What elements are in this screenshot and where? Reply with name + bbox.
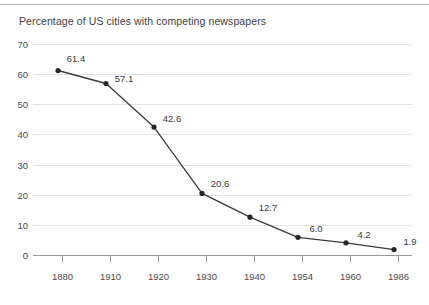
- data-point: [391, 247, 396, 252]
- y-gridlines: [33, 45, 412, 226]
- chart-page: Percentage of US cities with competing n…: [0, 0, 429, 305]
- x-tick-label: 1940: [244, 271, 265, 282]
- data-point-label: 20.6: [211, 178, 230, 189]
- data-point: [151, 125, 156, 130]
- y-tick-label: 30: [17, 160, 28, 171]
- x-tick-label: 1920: [148, 271, 169, 282]
- series-line: [58, 71, 394, 250]
- data-point: [55, 68, 60, 73]
- y-tick-label: 60: [17, 69, 28, 80]
- data-point: [247, 215, 252, 220]
- x-tick-label: 1954: [292, 271, 313, 282]
- y-tick-label: 20: [17, 190, 28, 201]
- series-markers: [55, 68, 396, 252]
- x-tick-label: 1986: [388, 271, 409, 282]
- data-point-label: 4.2: [357, 229, 370, 240]
- y-tick-label: 10: [17, 220, 28, 231]
- x-axis-tick-labels: 1880 1910 1920 1930 1940 1954 1960 1986: [52, 271, 409, 282]
- y-tick-label: 40: [17, 129, 28, 140]
- data-point-label: 6.0: [309, 223, 322, 234]
- x-tick-label: 1930: [196, 271, 217, 282]
- data-point-label: 61.4: [67, 53, 86, 64]
- data-point: [199, 191, 204, 196]
- data-point-label: 42.6: [163, 113, 182, 124]
- data-point-labels: 61.4 57.1 42.6 20.6 12.7 6.0 4.2 1.9: [67, 53, 417, 247]
- y-tick-label: 70: [17, 39, 28, 50]
- data-point: [295, 235, 300, 240]
- line-chart: 70 60 50 40 30 20 10 0 1880 1910 1920 19…: [0, 0, 429, 305]
- y-axis-tick-labels: 70 60 50 40 30 20 10 0: [17, 39, 28, 261]
- y-tick-label: 50: [17, 99, 28, 110]
- y-tick-label: 0: [23, 250, 28, 261]
- x-tick-label: 1880: [52, 271, 73, 282]
- x-tick-label: 1910: [100, 271, 121, 282]
- x-tick-label: 1960: [340, 271, 361, 282]
- data-point-label: 12.7: [259, 202, 278, 213]
- data-point: [103, 81, 108, 86]
- x-axis-ticks: [63, 256, 399, 262]
- data-point: [343, 240, 348, 245]
- data-point-label: 1.9: [403, 236, 416, 247]
- data-point-label: 57.1: [115, 73, 134, 84]
